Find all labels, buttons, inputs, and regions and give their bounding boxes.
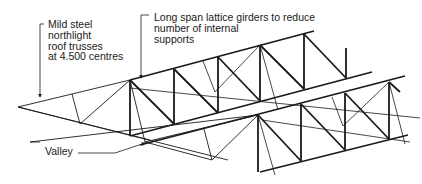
leader-girders — [141, 15, 149, 78]
leader-trusses — [40, 24, 44, 97]
label-mild-steel-trusses: Mild steel northlight roof trusses at 4.… — [48, 19, 123, 62]
upper-lattice-girder — [130, 31, 372, 136]
leader-valley — [78, 143, 145, 153]
label-lattice-girders: Long span lattice girders to reduce numb… — [154, 12, 315, 44]
lower-truss-web — [30, 82, 410, 175]
label-valley: Valley — [45, 146, 73, 157]
